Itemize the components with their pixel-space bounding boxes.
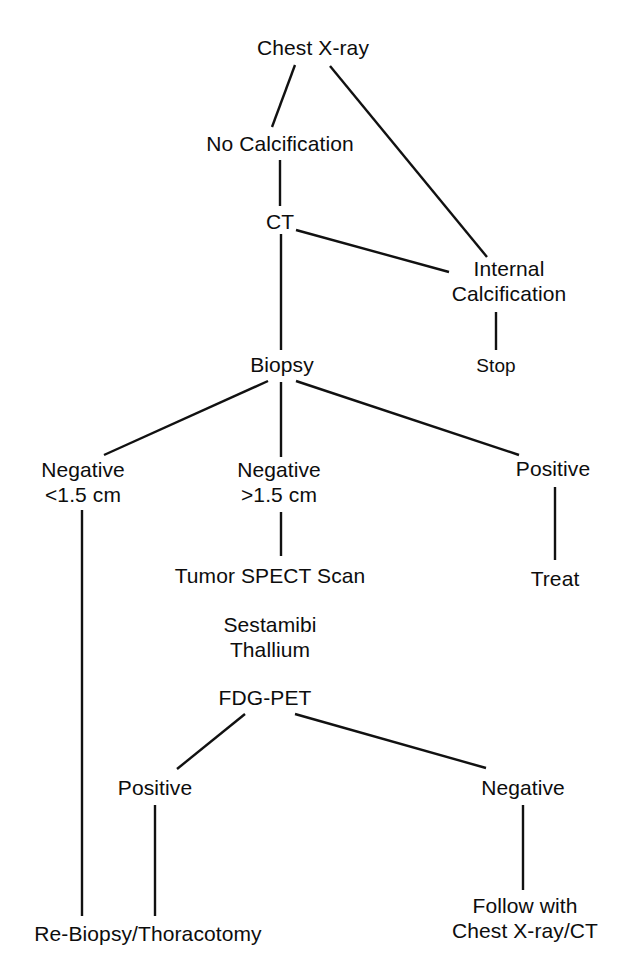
node-chest-xray: Chest X-ray — [257, 35, 369, 60]
node-re-biopsy-thoracotomy: Re-Biopsy/Thoracotomy — [34, 921, 261, 946]
edge-biopsy-to-positive — [296, 381, 519, 455]
node-no-calcification: No Calcification — [206, 131, 354, 156]
node-biopsy: Biopsy — [250, 352, 314, 377]
edge-fdg-pet-to-pet-positive — [177, 714, 245, 769]
node-tumor-spect-scan: Tumor SPECT Scan — [175, 563, 366, 588]
node-pet-positive: Positive — [118, 775, 192, 800]
decision-tree-diagram: Chest X-rayNo CalcificationInternal Calc… — [0, 0, 626, 967]
node-follow-with: Follow with Chest X-ray/CT — [452, 893, 598, 943]
node-pet-negative: Negative — [481, 775, 565, 800]
node-treat: Treat — [531, 566, 580, 591]
node-ct: CT — [266, 209, 294, 234]
edge-ct-to-internal-calcification — [296, 230, 449, 272]
node-biopsy-positive: Positive — [516, 456, 590, 481]
edge-fdg-pet-to-pet-negative — [295, 714, 486, 768]
edge-biopsy-to-negative-small — [104, 381, 268, 455]
edge-chest-xray-to-no-calcification — [272, 65, 295, 127]
node-internal-calcification: Internal Calcification — [452, 256, 567, 306]
node-sestamibi-thallium: Sestamibi Thallium — [223, 612, 316, 662]
node-stop: Stop — [476, 354, 516, 377]
edge-chest-xray-to-internal-calcification — [330, 66, 487, 257]
node-fdg-pet: FDG-PET — [219, 685, 312, 710]
node-negative-large: Negative >1.5 cm — [237, 457, 321, 507]
node-negative-small: Negative <1.5 cm — [41, 457, 125, 507]
